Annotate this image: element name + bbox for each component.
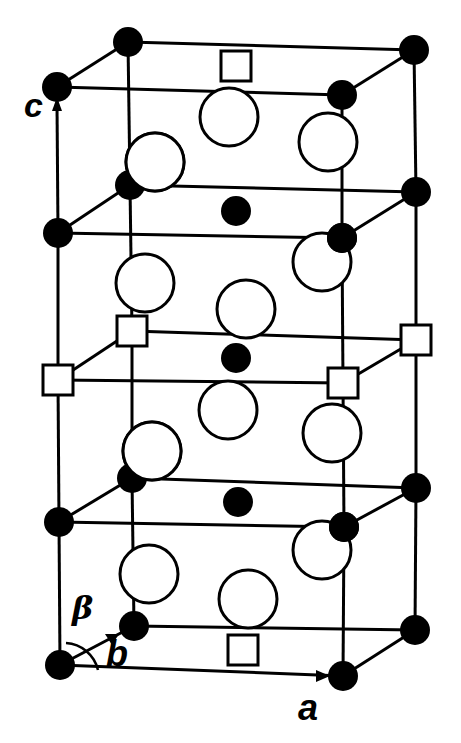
vertical-edge <box>414 50 416 192</box>
corner-atom-dot <box>45 650 75 680</box>
beta-angle-label: β <box>72 592 93 624</box>
large-atom-circle-front <box>126 133 184 191</box>
atoms <box>42 27 431 691</box>
corner-atom-dot <box>400 615 430 645</box>
large-atom-circle <box>200 88 258 146</box>
vertical-edge <box>59 522 60 665</box>
front-edge <box>60 665 343 676</box>
site-square <box>221 51 251 81</box>
back-edge <box>132 478 416 488</box>
vertical-edge <box>415 488 416 630</box>
large-atom-circle <box>217 280 275 338</box>
back-edge <box>132 331 416 340</box>
large-atom-circle <box>219 570 277 628</box>
b-axis-label: b <box>106 636 128 672</box>
a-axis-label: a <box>298 690 318 726</box>
small-atom-dot <box>221 343 251 373</box>
large-atom-circle <box>199 381 257 439</box>
corner-atom-dot <box>43 218 73 248</box>
a-axis-arrowhead <box>316 670 330 682</box>
corner-site-square <box>43 365 73 395</box>
front-edge <box>58 380 343 383</box>
back-edge <box>134 626 415 630</box>
large-atom-circle <box>120 545 178 603</box>
small-atom-dot <box>221 196 251 226</box>
front-edge <box>59 522 344 527</box>
corner-atom-dot <box>399 35 429 65</box>
corner-atom-dot <box>401 473 431 503</box>
axis-arrows <box>52 97 330 682</box>
corner-site-square <box>117 316 147 346</box>
vertical-edge <box>58 380 59 522</box>
back-edge <box>128 42 414 50</box>
large-atom-circle <box>299 113 357 171</box>
corner-atom-dot <box>42 72 72 102</box>
front-edge <box>58 233 342 238</box>
large-atom-circle-front <box>123 422 181 480</box>
front-edge <box>57 87 342 95</box>
crystal-unit-cell-diagram <box>0 0 461 743</box>
large-atom-circle <box>116 254 174 312</box>
c-axis-line <box>57 104 58 233</box>
large-atom-circle <box>303 404 361 462</box>
corner-site-square <box>401 325 431 355</box>
corner-atom-dot <box>44 507 74 537</box>
corner-atom-dot <box>401 177 431 207</box>
site-square <box>228 635 258 665</box>
corner-atom-dot <box>113 27 143 57</box>
c-axis-label: c <box>24 88 43 122</box>
small-atom-dot <box>223 487 253 517</box>
